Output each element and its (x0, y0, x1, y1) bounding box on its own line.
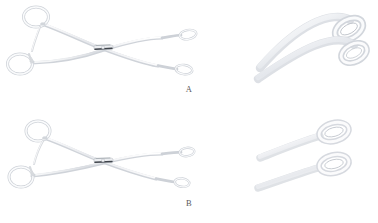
ratchet-lock-b (30, 141, 43, 175)
jaw-lower-a (158, 64, 193, 75)
panel-a: A (0, 0, 378, 111)
panel-b: B (0, 112, 378, 223)
figure-root: A (0, 0, 378, 223)
ratchet-lock-a (29, 27, 40, 62)
jaw-upper-b (162, 147, 195, 157)
shank-lower-b (32, 153, 162, 176)
panel-a-jaw-closeup-view (258, 6, 374, 82)
panel-b-jaw-closeup-view (258, 118, 374, 194)
panel-b-instrument-full-view (6, 114, 202, 198)
closeup-jaw-lower-a (258, 39, 370, 79)
panel-a-instrument-full-view (6, 2, 202, 86)
jaw-lower-b (156, 177, 190, 187)
finger-ring-upper-a (24, 7, 49, 27)
box-lock-hinge-b (94, 158, 113, 163)
panel-a-label: A (0, 84, 378, 94)
box-lock-hinge-a (94, 45, 113, 50)
shank-lower-a (32, 37, 162, 63)
jaw-upper-a (162, 29, 197, 41)
panel-b-label: B (0, 198, 378, 208)
finger-ring-upper-b (26, 121, 50, 141)
